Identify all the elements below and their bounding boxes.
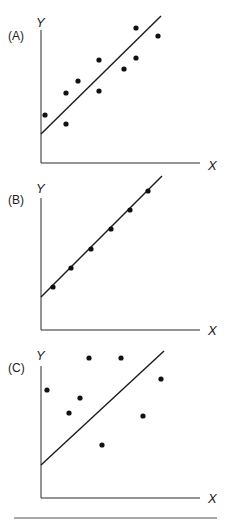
- y-axis-label: Y: [36, 181, 46, 196]
- regression-line: [41, 16, 161, 134]
- axes: [41, 30, 200, 163]
- scatter-panel-c: (C)YX: [8, 348, 218, 506]
- data-point: [66, 410, 71, 415]
- x-axis-label: X: [207, 323, 218, 338]
- data-point: [158, 376, 163, 381]
- scatter-panel-a: (A)YX: [8, 15, 218, 173]
- axes: [41, 366, 200, 498]
- data-point: [75, 78, 80, 83]
- y-axis-label: Y: [36, 348, 46, 363]
- correlation-scatter-panels: (A)YX(B)YX(C)YX: [0, 0, 227, 527]
- data-point: [44, 387, 49, 392]
- scatter-panel-b: (B)YX: [8, 176, 218, 338]
- data-point: [96, 88, 101, 93]
- data-point: [155, 33, 160, 38]
- data-point: [88, 246, 93, 251]
- data-point: [50, 284, 55, 289]
- data-point: [118, 355, 123, 360]
- panel-label: (A): [8, 29, 24, 43]
- regression-line: [41, 176, 162, 297]
- y-axis-label: Y: [36, 15, 46, 30]
- data-point: [127, 207, 132, 212]
- panel-label: (C): [8, 361, 25, 375]
- data-point: [63, 121, 68, 126]
- data-point: [86, 355, 91, 360]
- regression-line: [41, 351, 164, 465]
- data-point: [99, 442, 104, 447]
- data-point: [145, 188, 150, 193]
- data-point: [68, 265, 73, 270]
- data-point: [42, 112, 47, 117]
- data-point: [140, 413, 145, 418]
- x-axis-label: X: [207, 158, 218, 173]
- data-point: [63, 90, 68, 95]
- data-point: [133, 55, 138, 60]
- data-point: [133, 25, 138, 30]
- data-point: [108, 226, 113, 231]
- data-point: [96, 57, 101, 62]
- data-point: [121, 66, 126, 71]
- panel-label: (B): [8, 193, 24, 207]
- data-point: [77, 395, 82, 400]
- x-axis-label: X: [207, 491, 218, 506]
